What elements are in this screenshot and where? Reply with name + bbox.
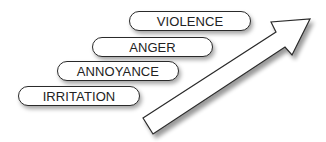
level-irritation: IRRITATION xyxy=(18,86,140,106)
level-label: ANGER xyxy=(129,40,176,55)
level-label: ANNOYANCE xyxy=(77,64,159,79)
level-annoyance: ANNOYANCE xyxy=(57,61,179,81)
level-label: VIOLENCE xyxy=(157,14,224,29)
level-violence: VIOLENCE xyxy=(129,11,251,31)
level-anger: ANGER xyxy=(92,37,213,57)
level-label: IRRITATION xyxy=(43,89,116,104)
